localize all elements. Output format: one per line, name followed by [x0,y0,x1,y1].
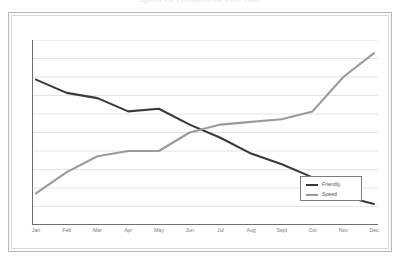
x-axis-label-nov: Nov [339,227,348,233]
x-axis-label-jun: Jun [185,227,193,233]
x-axis-label-sept: Sept [276,227,287,233]
legend-label-speed: Speed [322,192,337,197]
chart-legend: Friendly Speed [300,176,362,201]
chart-title: Speed vs. Friendliness Over Time [0,0,400,3]
legend-swatch-speed [306,194,318,197]
x-axis-label-oct: Oct [308,227,316,233]
legend-label-friendly: Friendly [322,182,340,187]
x-axis-label-feb: Feb [62,227,71,233]
x-axis-label-jul: Jul [217,227,224,233]
x-axis-label-may: May [154,227,164,233]
legend-item-speed: Speed [306,191,361,199]
series-line-speed [36,53,374,193]
x-axis-labels: JanFebMarAprMayJunJulAugSeptOctNovDec [32,227,378,239]
x-axis-label-mar: Mar [93,227,102,233]
x-axis-label-aug: Aug [246,227,255,233]
legend-swatch-friendly [306,184,318,187]
x-axis-label-apr: Apr [124,227,132,233]
legend-item-friendly: Friendly [306,181,361,189]
x-axis-label-jan: Jan [32,227,40,233]
x-axis-label-dec: Dec [369,227,378,233]
